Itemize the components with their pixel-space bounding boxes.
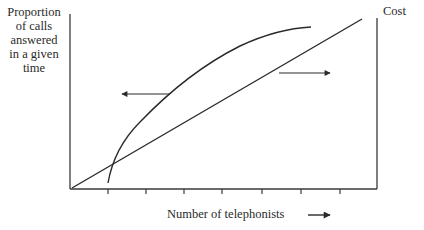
chart-plot [0,0,424,230]
x-ticks [108,189,340,194]
cost-line [72,19,362,188]
proportion-curve [108,27,311,183]
x-axis-label: Number of telephonists [167,207,284,221]
